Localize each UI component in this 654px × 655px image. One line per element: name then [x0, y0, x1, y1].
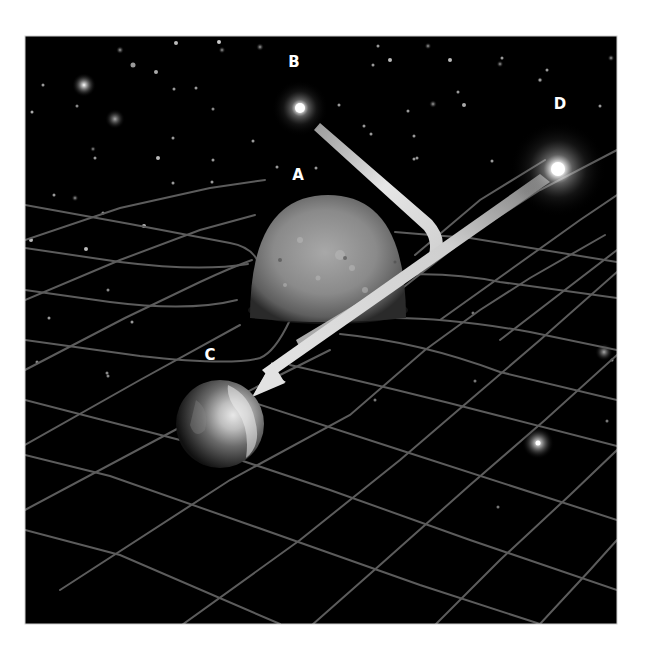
star-d: [510, 121, 606, 217]
label-c: C: [204, 348, 215, 363]
planet-c: [176, 380, 264, 468]
label-d: D: [554, 97, 566, 112]
star-lower-right: [522, 427, 554, 459]
label-a: A: [292, 168, 304, 183]
star-b: [272, 80, 328, 136]
label-b: B: [288, 55, 299, 70]
lensing-diagram: A B C D: [0, 0, 654, 655]
